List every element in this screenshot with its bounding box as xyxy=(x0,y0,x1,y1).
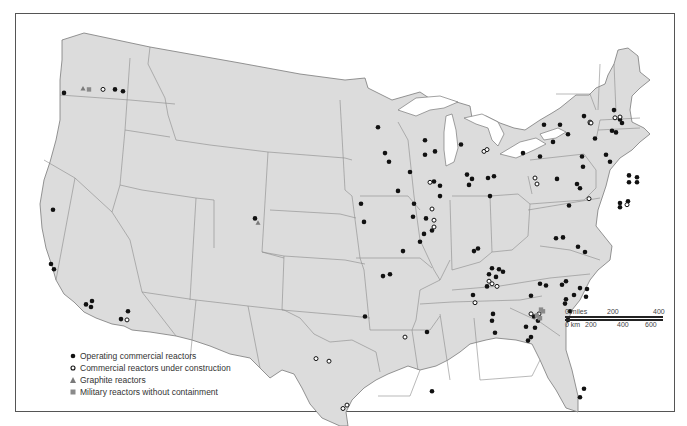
construction-reactor-marker xyxy=(485,148,489,152)
operating-reactor-marker xyxy=(491,312,496,317)
operating-reactor-marker xyxy=(425,330,430,335)
construction-reactor-marker xyxy=(345,403,349,407)
operating-reactor-marker xyxy=(470,177,475,182)
legend-label: Operating commercial reactors xyxy=(80,351,196,361)
operating-reactor-marker xyxy=(610,128,615,133)
scale-label: 600 xyxy=(645,321,657,328)
construction-reactor-marker xyxy=(535,182,539,186)
operating-reactor-marker xyxy=(408,170,413,175)
operating-reactor-marker xyxy=(560,282,565,287)
military-reactor-marker xyxy=(541,309,545,313)
construction-reactor-marker xyxy=(125,318,129,322)
operating-reactor-marker xyxy=(564,297,569,302)
operating-reactor-marker xyxy=(612,108,617,113)
construction-reactor-marker xyxy=(314,357,318,361)
open-circle-icon xyxy=(66,364,80,372)
operating-reactor-marker xyxy=(383,151,388,156)
operating-reactor-marker xyxy=(501,270,506,275)
operating-reactor-marker xyxy=(412,202,417,207)
operating-reactor-marker xyxy=(585,287,590,292)
legend-label: Commercial reactors under construction xyxy=(80,363,231,373)
operating-reactor-marker xyxy=(493,331,498,336)
operating-reactor-marker xyxy=(401,249,406,254)
legend-item-graphite: Graphite reactors xyxy=(66,374,231,386)
filled-circle-icon xyxy=(66,352,80,360)
operating-reactor-marker xyxy=(529,294,534,299)
construction-reactor-marker xyxy=(428,180,432,184)
operating-reactor-marker xyxy=(488,194,493,199)
operating-reactor-marker xyxy=(424,216,429,221)
operating-reactor-marker xyxy=(438,194,443,199)
operating-reactor-marker xyxy=(423,138,428,143)
operating-reactor-marker xyxy=(563,301,568,306)
operating-reactor-marker xyxy=(627,173,632,178)
operating-reactor-marker xyxy=(620,121,625,126)
operating-reactor-marker xyxy=(582,386,587,391)
scale-label: 200 xyxy=(585,321,597,328)
operating-reactor-marker xyxy=(362,220,367,225)
operating-reactor-marker xyxy=(521,151,526,156)
operating-reactor-marker xyxy=(561,235,566,240)
operating-reactor-marker xyxy=(465,172,470,177)
legend-item-operating: Operating commercial reactors xyxy=(66,350,231,362)
operating-reactor-marker xyxy=(572,293,577,298)
operating-reactor-marker xyxy=(614,130,619,135)
triangle-icon xyxy=(66,376,80,384)
construction-reactor-marker xyxy=(403,335,407,339)
operating-reactor-marker xyxy=(542,122,547,127)
operating-reactor-marker xyxy=(359,202,364,207)
operating-reactor-marker xyxy=(492,174,497,179)
construction-reactor-marker xyxy=(430,207,434,211)
operating-reactor-marker xyxy=(497,267,502,272)
operating-reactor-marker xyxy=(119,317,124,322)
scale-label: 0 km xyxy=(565,321,580,328)
operating-reactor-marker xyxy=(476,246,481,251)
map-legend: Operating commercial reactors Commercial… xyxy=(66,350,231,398)
operating-reactor-marker xyxy=(544,283,549,288)
scale-label: 400 xyxy=(653,308,665,315)
operating-reactor-marker xyxy=(578,395,583,400)
scale-miles-labels: 0 miles 200 400 xyxy=(565,308,665,316)
operating-reactor-marker xyxy=(113,87,118,92)
operating-reactor-marker xyxy=(608,159,613,164)
operating-reactor-marker xyxy=(388,272,393,277)
operating-reactor-marker xyxy=(363,314,368,319)
operating-reactor-marker xyxy=(490,319,495,324)
operating-reactor-marker xyxy=(126,309,131,314)
construction-reactor-marker xyxy=(487,279,491,283)
scale-label: 0 miles xyxy=(565,308,587,315)
military-reactor-marker xyxy=(538,316,542,320)
operating-reactor-marker xyxy=(618,201,623,206)
operating-reactor-marker xyxy=(494,275,499,280)
operating-reactor-marker xyxy=(121,89,126,94)
construction-reactor-marker xyxy=(529,312,533,316)
operating-reactor-marker xyxy=(52,267,57,272)
operating-reactor-marker xyxy=(538,282,543,287)
operating-reactor-marker xyxy=(486,176,491,181)
operating-reactor-marker xyxy=(472,249,477,254)
operating-reactor-marker xyxy=(387,159,392,164)
operating-reactor-marker xyxy=(566,132,571,137)
square-icon xyxy=(66,388,80,396)
operating-reactor-marker xyxy=(376,125,381,130)
operating-reactor-marker xyxy=(396,189,401,194)
operating-reactor-marker xyxy=(490,266,495,271)
construction-reactor-marker xyxy=(473,301,477,305)
construction-reactor-marker xyxy=(341,407,345,411)
operating-reactor-marker xyxy=(471,293,476,298)
construction-reactor-marker xyxy=(101,87,105,91)
operating-reactor-marker xyxy=(582,114,587,119)
operating-reactor-marker xyxy=(578,186,583,191)
operating-reactor-marker xyxy=(533,325,538,330)
operating-reactor-marker xyxy=(430,389,435,394)
operating-reactor-marker xyxy=(381,274,386,279)
operating-reactor-marker xyxy=(593,136,598,141)
operating-reactor-marker xyxy=(604,153,609,158)
legend-item-military: Military reactors without containment xyxy=(66,386,231,398)
operating-reactor-marker xyxy=(89,305,94,310)
operating-reactor-marker xyxy=(555,177,560,182)
operating-reactor-marker xyxy=(49,262,54,267)
operating-reactor-marker xyxy=(467,183,472,188)
operating-reactor-marker xyxy=(422,232,427,237)
operating-reactor-marker xyxy=(459,142,464,147)
